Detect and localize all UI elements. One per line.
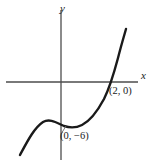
graph-figure: y x (2, 0) (0, −6) — [0, 0, 154, 163]
x-axis-label: x — [141, 70, 146, 81]
y-axis-label: y — [60, 3, 65, 14]
y-intercept-point-label: (0, −6) — [60, 131, 89, 142]
x-intercept-point-label: (2, 0) — [109, 86, 132, 97]
